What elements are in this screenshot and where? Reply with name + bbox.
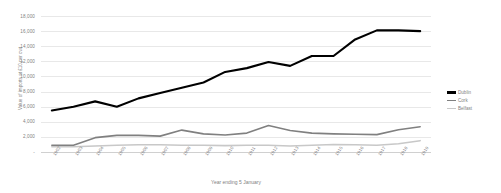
- x-axis-tick-labels: 1902190319041905190619071908190919101911…: [41, 152, 431, 178]
- y-axis-tick-label: 14,000: [20, 44, 35, 49]
- legend-item-dublin[interactable]: Dublin: [447, 89, 499, 96]
- y-axis-tick-label: 4,000: [23, 119, 35, 124]
- series-lines: [41, 16, 431, 152]
- legend-item-cork[interactable]: Cork: [447, 97, 499, 104]
- y-axis-tick-label: -: [33, 150, 35, 155]
- y-axis-tick-label: 16,000: [20, 29, 35, 34]
- x-axis-title: Year ending 5 January: [41, 179, 431, 185]
- series-line-belfast: [52, 141, 420, 147]
- legend-swatch-cork-icon: [447, 100, 456, 102]
- legend-label: Belfast: [458, 106, 472, 111]
- legend-swatch-belfast-icon: [447, 108, 456, 110]
- chart-legend: DublinCorkBelfast: [447, 89, 499, 113]
- y-axis-tick-label: 10,000: [20, 74, 35, 79]
- line-chart: Value of imports at £10 per cwt 18,00016…: [0, 0, 501, 193]
- y-axis-tick-label: 6,000: [23, 104, 35, 109]
- y-axis-tick-label: 8,000: [23, 89, 35, 94]
- legend-label: Dublin: [458, 90, 471, 95]
- legend-label: Cork: [458, 98, 468, 103]
- y-axis-tick-labels: 18,00016,00014,00012,00010,0008,0006,000…: [0, 0, 38, 193]
- legend-swatch-dublin-icon: [447, 91, 456, 93]
- y-axis-tick-label: 2,000: [23, 134, 35, 139]
- series-line-cork: [52, 126, 420, 146]
- y-axis-tick-label: 12,000: [20, 59, 35, 64]
- y-axis-tick-label: 18,000: [20, 14, 35, 19]
- series-line-dublin: [52, 30, 420, 110]
- plot-area: [41, 16, 431, 152]
- legend-item-belfast[interactable]: Belfast: [447, 105, 499, 112]
